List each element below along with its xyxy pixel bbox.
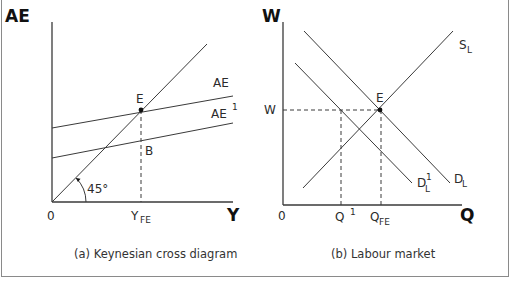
q1-superscript: 1: [350, 207, 356, 217]
labour-demand1-curve: [295, 63, 412, 183]
y-axis-end-label: Y: [226, 205, 240, 225]
sl-subscript: L: [467, 45, 472, 55]
point-b-label: B: [145, 144, 153, 158]
dl1-superscript: 1: [426, 172, 432, 182]
ae1-superscript: 1: [232, 102, 238, 112]
yfe-label: Y: [130, 209, 139, 223]
ae1-curve-label: AE: [211, 107, 227, 121]
point-e-label-b: E: [376, 91, 384, 105]
labour-demand-curve: [304, 31, 450, 183]
line-45-degree: [52, 44, 207, 202]
dl1-subscript: L: [425, 184, 430, 194]
angle-arrowhead-icon: [76, 178, 81, 182]
origin-label-b: 0: [278, 209, 286, 223]
panel-labour-market: W Q 0 W E S L D L D L 1 Q 1 Q FE (b) Lab…: [262, 6, 474, 261]
equilibrium-point-e: [139, 108, 144, 113]
ae-curve-label: AE: [213, 76, 229, 90]
q-axis-end-label: Q: [460, 205, 474, 225]
angle-label: 45°: [87, 182, 108, 196]
figure-canvas: AE Y 0 45° E B AE AE 1 Y FE (a) Keynesia…: [0, 0, 513, 281]
caption-keynesian-cross: (a) Keynesian cross diagram: [74, 247, 237, 261]
w-axis-label: W: [262, 6, 281, 26]
equilibrium-point-e-labour: [378, 108, 383, 113]
caption-labour-market: (b) Labour market: [331, 247, 436, 261]
sl-label: S: [459, 38, 467, 52]
wage-level-label: W: [264, 103, 276, 117]
point-e-label-a: E: [136, 92, 144, 106]
q1-label: Q: [335, 210, 344, 224]
yfe-subscript: FE: [140, 215, 151, 225]
origin-label-a: 0: [47, 209, 55, 223]
ae-axis-label: AE: [5, 6, 30, 26]
ae1-line: [52, 123, 233, 158]
panel-keynesian-cross: AE Y 0 45° E B AE AE 1 Y FE (a) Keynesia…: [5, 6, 240, 261]
dl-subscript: L: [462, 179, 467, 189]
qfe-subscript: FE: [379, 217, 390, 227]
angle-arc: [76, 178, 86, 202]
